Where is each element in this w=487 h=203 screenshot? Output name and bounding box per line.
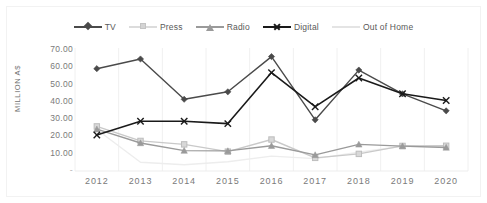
series-digital: [94, 69, 450, 138]
datapoint-press-2014: [181, 142, 186, 147]
series-tv: [94, 53, 450, 122]
series-line-digital: [97, 73, 446, 135]
datapoint-tv-2020: [443, 108, 449, 114]
gridlines-vertical: [75, 48, 468, 171]
chart-container: TV Press Radio Digital: [0, 0, 487, 203]
datapoint-press-2018: [356, 151, 361, 156]
datapoint-tv-2012: [94, 66, 100, 72]
chart-plot-svg: [0, 0, 487, 203]
series-line-tv: [97, 57, 446, 120]
plot-area-wrapper: MILLION A$ 70.0060.0050.0040.0030.0020.0…: [0, 0, 487, 203]
datapoint-press-2016: [269, 137, 274, 142]
